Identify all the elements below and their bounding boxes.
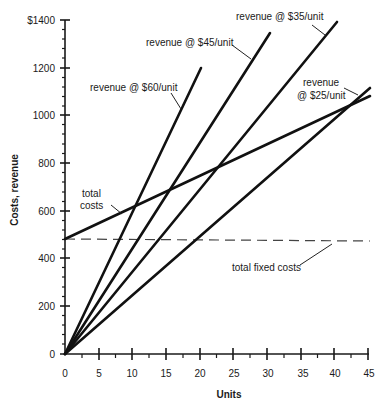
x-tick-10: 10 bbox=[126, 368, 138, 379]
y-tick-400: 400 bbox=[38, 253, 55, 264]
x-tick-5: 5 bbox=[96, 368, 102, 379]
x-tick-35: 35 bbox=[297, 368, 309, 379]
x-axis bbox=[60, 348, 369, 360]
break-even-chart: $1400 1200 1000 800 600 400 200 0 0 5 10… bbox=[0, 0, 386, 409]
revenue-35-line bbox=[65, 22, 337, 354]
y-tick-200: 200 bbox=[38, 301, 55, 312]
x-tick-20: 20 bbox=[194, 368, 206, 379]
x-axis-title: Units bbox=[217, 389, 242, 400]
annotation-revenue-25-line2: @ $25/unit bbox=[297, 90, 346, 101]
total-fixed-costs-line bbox=[65, 239, 370, 241]
x-tick-labels: 0 5 10 15 20 25 30 35 40 45 bbox=[62, 368, 375, 379]
annotation-total-fixed-costs: total fixed costs bbox=[232, 262, 301, 273]
y-tick-labels: $1400 1200 1000 800 600 400 200 0 bbox=[27, 15, 55, 360]
y-tick-1000: 1000 bbox=[33, 110, 56, 121]
x-tick-30: 30 bbox=[262, 368, 274, 379]
series-lines bbox=[65, 22, 370, 354]
x-tick-40: 40 bbox=[329, 368, 341, 379]
y-tick-1200: 1200 bbox=[33, 63, 56, 74]
annotation-revenue-60: revenue @ $60/unit bbox=[90, 82, 178, 93]
y-tick-600: 600 bbox=[38, 206, 55, 217]
revenue-25-line bbox=[65, 88, 370, 354]
annotation-total-costs-line1: total bbox=[82, 188, 101, 199]
x-tick-15: 15 bbox=[160, 368, 172, 379]
annotation-revenue-35: revenue @ $35/unit bbox=[236, 11, 324, 22]
x-tick-25: 25 bbox=[228, 368, 240, 379]
y-tick-0: 0 bbox=[49, 349, 55, 360]
y-tick-1400: $1400 bbox=[27, 15, 55, 26]
annotation-revenue-45: revenue @ $45/unit bbox=[146, 37, 234, 48]
y-tick-800: 800 bbox=[38, 158, 55, 169]
x-tick-0: 0 bbox=[62, 368, 68, 379]
y-axis bbox=[60, 20, 70, 354]
annotation-revenue-25-line1: revenue bbox=[303, 77, 340, 88]
annotation-total-costs-line2: costs bbox=[80, 200, 103, 211]
annotation-leaders bbox=[111, 25, 358, 265]
y-axis-title: Costs, revenue bbox=[9, 154, 20, 226]
x-tick-45: 45 bbox=[363, 368, 375, 379]
